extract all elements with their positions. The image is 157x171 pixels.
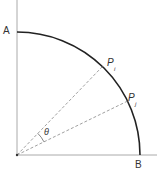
label-pi: P bbox=[107, 57, 114, 68]
origin-point bbox=[16, 154, 18, 156]
dashed-ray-pi bbox=[17, 67, 102, 155]
dashed-ray-pj bbox=[17, 101, 128, 155]
label-theta: θ bbox=[44, 127, 49, 137]
label-pj-subscript: j bbox=[134, 101, 137, 107]
label-pj: P bbox=[128, 92, 135, 103]
label-b: B bbox=[135, 159, 142, 170]
quarter-arc bbox=[17, 32, 140, 155]
label-pi-subscript: i bbox=[114, 66, 116, 72]
label-a: A bbox=[3, 25, 10, 36]
quarter-circle-diagram: A B P i P j θ bbox=[0, 0, 157, 171]
